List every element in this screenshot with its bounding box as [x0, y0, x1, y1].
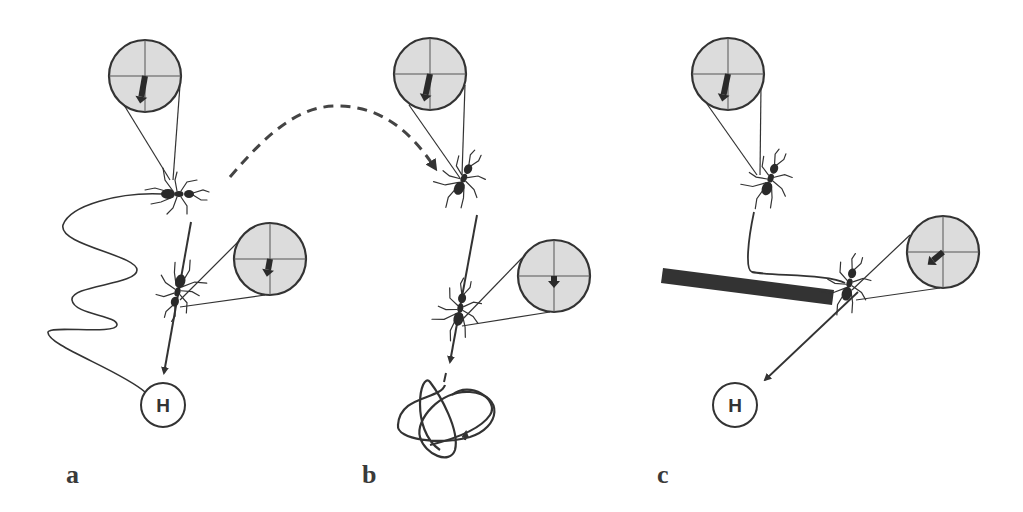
ant-icon: [735, 141, 800, 217]
compass-layer: [109, 38, 979, 312]
panel-label-c: c: [657, 462, 669, 488]
zoom-connector: [173, 85, 180, 180]
detour-path: [748, 212, 845, 283]
ant-icon: [145, 168, 209, 214]
home-vector-b: [450, 215, 477, 362]
displacement-arrow: [230, 106, 435, 177]
compass-icon: [518, 240, 590, 312]
outbound-path: [48, 194, 162, 392]
home-nest-a: H: [141, 383, 185, 427]
home-nest-c: H: [713, 383, 757, 427]
compass-icon: [907, 216, 979, 288]
compass-icon: [234, 223, 306, 295]
barrier: [661, 268, 834, 305]
diagram-canvas: H H: [0, 0, 1023, 512]
compass-icon: [692, 38, 764, 110]
zoom-connector: [124, 105, 170, 180]
compass-icon: [109, 40, 181, 112]
zoom-connector: [460, 258, 522, 322]
home-vector-c: [765, 292, 858, 380]
ant-icon: [429, 274, 485, 345]
zoom-connector: [707, 104, 757, 175]
search-pattern: [398, 380, 494, 457]
svg-text:H: H: [728, 395, 742, 416]
ant-icon: [150, 254, 211, 328]
panel-label-a: a: [66, 462, 79, 488]
zoom-connector: [180, 295, 265, 307]
compass-icon: [394, 38, 466, 110]
zoom-connector: [760, 85, 761, 175]
svg-text:H: H: [156, 395, 170, 416]
panel-c: H: [661, 85, 940, 427]
panel-a: H: [48, 85, 265, 427]
ant-icon: [816, 247, 877, 321]
ant-icon: [426, 140, 495, 217]
zoom-connector: [856, 288, 940, 300]
zoom-connector: [409, 105, 460, 178]
panel-label-b: b: [362, 462, 376, 488]
zoom-connector: [462, 85, 465, 175]
